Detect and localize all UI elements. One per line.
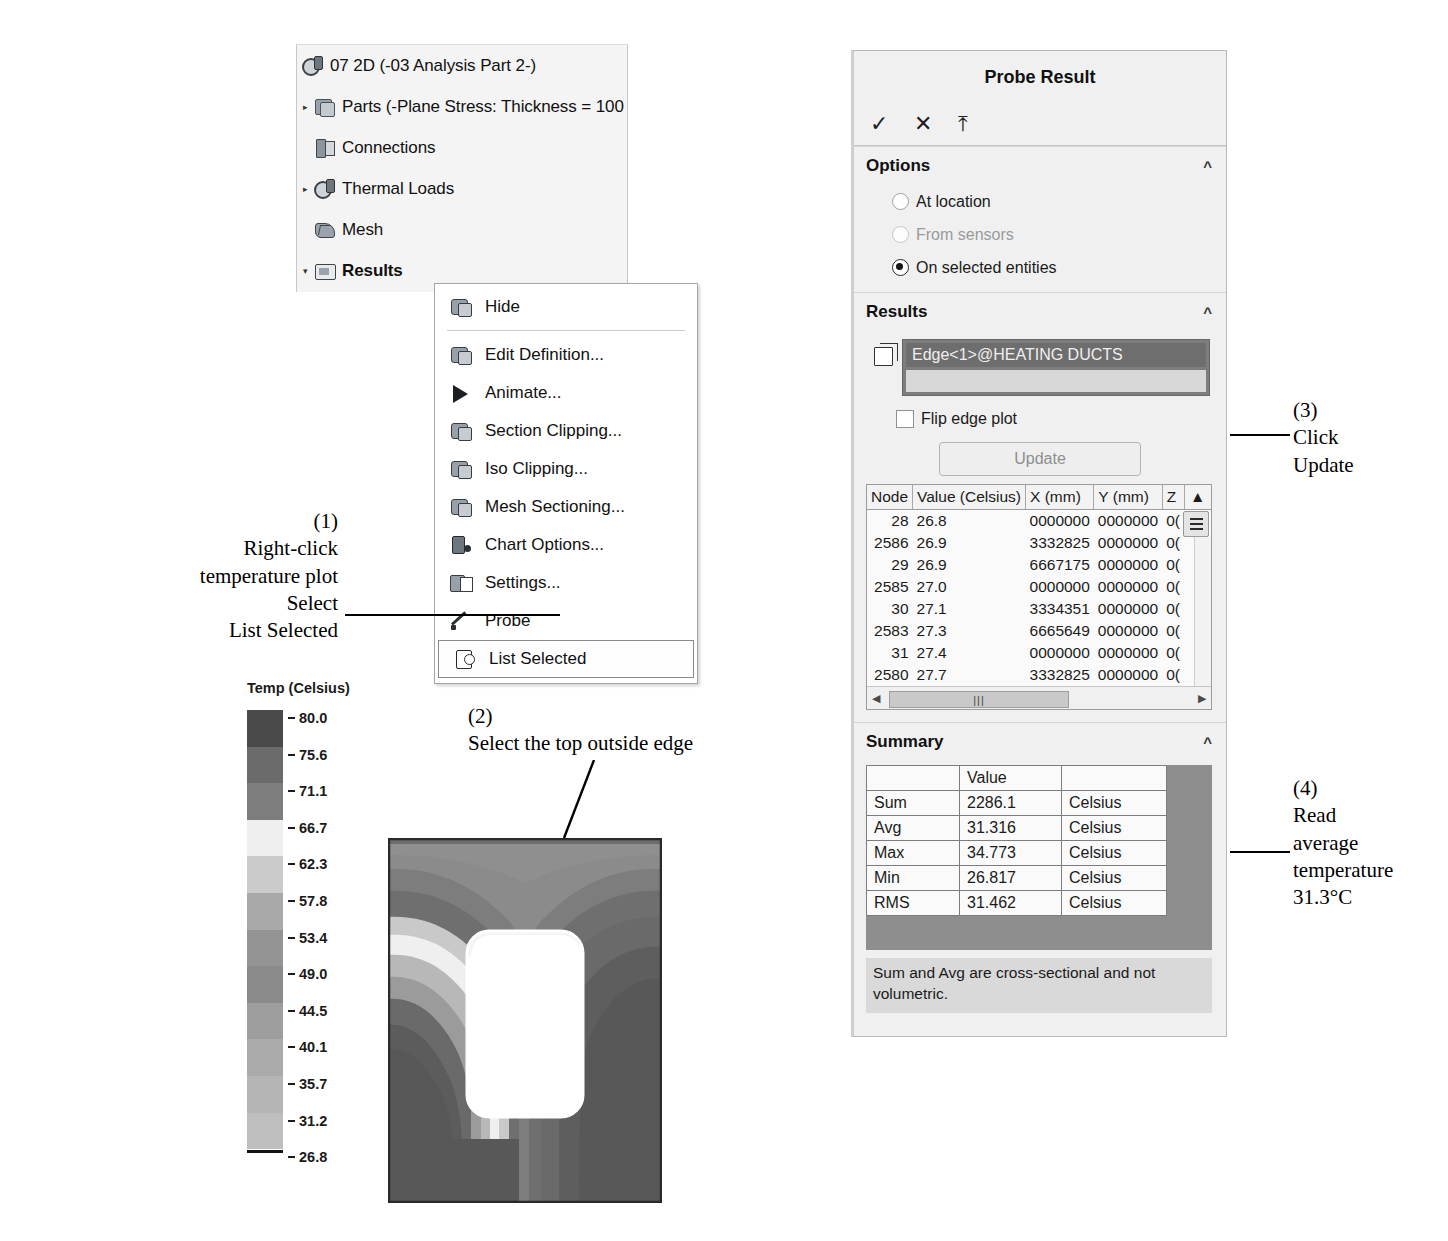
table-row: 258626.9333282500000000(	[867, 532, 1211, 554]
cell-y: 0000000	[1094, 554, 1162, 576]
scroll-right-icon[interactable]: ▶	[1193, 692, 1211, 705]
cell-z: 0(	[1162, 532, 1184, 554]
radio-at-location[interactable]: At location	[854, 185, 1226, 218]
magnet-icon	[313, 178, 337, 200]
chevron-right-icon[interactable]: ▸	[297, 184, 313, 194]
table-header-row: Node Value (Celsius) X (mm) Y (mm) Z ▲	[867, 485, 1211, 510]
checkbox-icon[interactable]	[896, 410, 914, 428]
menu-item-hide[interactable]: Hide	[435, 288, 697, 326]
close-icon[interactable]: ✕	[914, 113, 932, 135]
chevron-right-icon[interactable]: ▸	[297, 102, 313, 112]
tree-item-thermal-loads[interactable]: ▸ Thermal Loads	[297, 168, 627, 209]
radio-icon-selected[interactable]	[892, 259, 909, 276]
chevron-up-icon[interactable]: ^	[1203, 304, 1212, 321]
summary-unit: Celsius	[1062, 866, 1167, 891]
column-header-value[interactable]: Value (Celsius)	[913, 485, 1026, 510]
menu-item-settings[interactable]: Settings...	[435, 564, 697, 602]
menu-item-section-clipping[interactable]: Section Clipping...	[435, 412, 697, 450]
thermal-contour-plot[interactable]	[388, 838, 662, 1203]
summary-value-header: Value	[960, 766, 1062, 791]
table-vertical-scrollbar[interactable]	[1194, 537, 1211, 709]
table-row: 258027.7333282500000000(	[867, 664, 1211, 686]
menu-item-label: List Selected	[489, 649, 586, 669]
sort-ascending-icon[interactable]: ▲	[1184, 485, 1211, 510]
legend-tick: 66.7	[299, 810, 327, 847]
annotation-leader-3	[1230, 434, 1290, 436]
options-section-header[interactable]: Options ^	[854, 146, 1226, 185]
summary-value: 34.773	[960, 841, 1062, 866]
plot-context-menu[interactable]: Hide Edit Definition... Animate... Secti…	[434, 283, 698, 684]
tree-item-parts[interactable]: ▸ Parts (-Plane Stress: Thickness = 100	[297, 86, 627, 127]
summary-section-header[interactable]: Summary ^	[854, 722, 1226, 761]
menu-item-edit-definition[interactable]: Edit Definition...	[435, 336, 697, 374]
column-header-y[interactable]: Y (mm)	[1094, 485, 1162, 510]
selection-listbox[interactable]: Edge<1>@HEATING DUCTS	[902, 339, 1210, 396]
accept-icon[interactable]: ✓	[870, 113, 888, 135]
selection-entry[interactable]: Edge<1>@HEATING DUCTS	[906, 343, 1206, 367]
summary-row: Max34.773Celsius	[867, 841, 1167, 866]
legend-tick: 62.3	[299, 846, 327, 883]
section-clipping-icon	[449, 420, 475, 442]
results-section-header[interactable]: Results ^	[854, 292, 1226, 331]
legend-tick: 80.0	[299, 700, 327, 737]
feature-tree-panel[interactable]: 07 2D (-03 Analysis Part 2-) ▸ Parts (-P…	[296, 44, 628, 292]
summary-key: Avg	[867, 816, 960, 841]
summary-key: Sum	[867, 791, 960, 816]
cell-x: 3334351	[1026, 598, 1094, 620]
pin-icon[interactable]: ⤒	[958, 113, 968, 135]
tree-item-model[interactable]: 07 2D (-03 Analysis Part 2-)	[297, 45, 627, 86]
chevron-down-icon[interactable]: ▾	[297, 266, 313, 276]
column-header-z[interactable]: Z	[1162, 485, 1184, 510]
selection-empty-row[interactable]	[906, 370, 1206, 392]
cell-value: 26.9	[913, 532, 1026, 554]
menu-item-list-selected[interactable]: List Selected	[438, 640, 694, 678]
menu-item-animate[interactable]: Animate...	[435, 374, 697, 412]
selection-area[interactable]: Edge<1>@HEATING DUCTS	[854, 331, 1226, 396]
summary-note: Sum and Avg are cross-sectional and not …	[866, 958, 1212, 1013]
summary-table-container: Value Sum2286.1Celsius Avg31.316Celsius …	[866, 765, 1212, 950]
summary-row: Sum2286.1Celsius	[867, 791, 1167, 816]
column-header-node[interactable]: Node	[867, 485, 913, 510]
probe-result-property-manager[interactable]: Probe Result ✓ ✕ ⤒ Options ^ At location…	[851, 50, 1227, 1037]
cell-z: 0(	[1162, 510, 1184, 533]
legend-title: Temp (Celsius)	[247, 680, 387, 696]
node-results-table[interactable]: Node Value (Celsius) X (mm) Y (mm) Z ▲ 2…	[866, 484, 1212, 710]
cell-value: 27.3	[913, 620, 1026, 642]
tree-item-mesh[interactable]: Mesh	[297, 209, 627, 250]
menu-item-iso-clipping[interactable]: Iso Clipping...	[435, 450, 697, 488]
scroll-track[interactable]: |||	[885, 690, 1193, 706]
radio-on-selected-entities[interactable]: On selected entities	[854, 251, 1226, 284]
folder-icon	[313, 260, 337, 282]
scroll-left-icon[interactable]: ◀	[867, 692, 885, 705]
summary-unit: Celsius	[1062, 841, 1167, 866]
cell-value: 27.1	[913, 598, 1026, 620]
radio-icon[interactable]	[892, 193, 909, 210]
hide-icon	[449, 296, 475, 318]
cell-node: 28	[867, 510, 913, 533]
menu-item-probe[interactable]: Probe	[435, 602, 697, 640]
chevron-up-icon[interactable]: ^	[1203, 158, 1212, 175]
cell-x: 0000000	[1026, 642, 1094, 664]
flip-edge-plot-checkbox-row[interactable]: Flip edge plot	[854, 402, 1226, 436]
column-header-x[interactable]: X (mm)	[1026, 485, 1094, 510]
cell-x: 6665649	[1026, 620, 1094, 642]
panel-action-bar[interactable]: ✓ ✕ ⤒	[854, 103, 1226, 146]
annotation-leader-4	[1230, 851, 1290, 853]
menu-item-mesh-sectioning[interactable]: Mesh Sectioning...	[435, 488, 697, 526]
scroll-thumb[interactable]: |||	[889, 691, 1069, 708]
connections-icon	[313, 137, 337, 159]
update-button[interactable]: Update	[939, 442, 1141, 476]
table-menu-icon[interactable]	[1183, 511, 1209, 537]
cell-x: 3332825	[1026, 532, 1094, 554]
menu-item-label: Iso Clipping...	[485, 459, 588, 479]
table-row: 3127.4000000000000000(	[867, 642, 1211, 664]
summary-table: Value Sum2286.1Celsius Avg31.316Celsius …	[866, 765, 1167, 916]
cell-y: 0000000	[1094, 642, 1162, 664]
summary-header-row: Value	[867, 766, 1167, 791]
tree-item-connections[interactable]: Connections	[297, 127, 627, 168]
cell-z: 0(	[1162, 664, 1184, 686]
annotation-leader-1	[345, 614, 560, 616]
table-horizontal-scrollbar[interactable]: ◀ ||| ▶	[867, 686, 1211, 709]
menu-item-chart-options[interactable]: Chart Options...	[435, 526, 697, 564]
chevron-up-icon[interactable]: ^	[1203, 734, 1212, 751]
